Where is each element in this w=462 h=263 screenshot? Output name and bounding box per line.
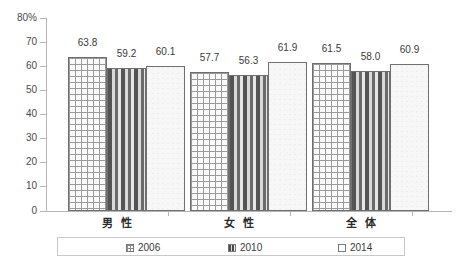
bar-value-2006-male: 63.8 <box>68 38 107 48</box>
y-axis-label-10: 10 <box>0 181 37 191</box>
bar-value-2014-male: 60.1 <box>146 47 185 57</box>
bar-value-2010-female: 56.3 <box>229 56 268 66</box>
y-axis-label-70: 70 <box>0 37 37 47</box>
y-axis-label-30: 30 <box>0 133 37 143</box>
bar-value-2010-total: 58.0 <box>351 52 390 62</box>
bar-2014-total <box>390 64 429 211</box>
legend-swatch-stripe-icon <box>228 244 236 252</box>
x-axis-category-male: 男 性 <box>68 216 168 230</box>
x-axis-tick <box>290 211 291 216</box>
bar-2014-female <box>268 62 307 211</box>
bar-value-2006-female: 57.7 <box>190 53 229 63</box>
legend-item-2010: 2010 <box>228 241 262 254</box>
y-axis-label-0: 0 <box>0 206 37 216</box>
bar-value-2010-male: 59.2 <box>107 49 146 59</box>
legend-item-2014: 2014 <box>338 241 372 254</box>
legend-swatch-crosshatch-icon <box>126 244 134 252</box>
bar-2006-female <box>190 72 229 211</box>
x-axis-tick <box>412 211 413 216</box>
chart-legend: 2006 2010 2014 <box>57 237 405 256</box>
plot-area: 63.8 59.2 60.1 57.7 56.3 61.9 61.5 58.0 … <box>46 14 452 211</box>
legend-item-2006: 2006 <box>126 241 160 254</box>
y-axis-label-60: 60 <box>0 61 37 71</box>
bar-value-2014-total: 60.9 <box>390 45 429 55</box>
bar-2010-female <box>229 75 268 211</box>
bar-chart: 80% 70 60 50 40 30 20 10 0 63.8 59.2 60.… <box>0 0 462 263</box>
x-axis-category-female: 女 性 <box>190 216 290 230</box>
legend-label-2014: 2014 <box>350 242 372 254</box>
bar-value-2014-female: 61.9 <box>268 43 307 53</box>
bar-2010-total <box>351 71 390 211</box>
legend-label-2010: 2010 <box>240 242 262 254</box>
y-axis-label-40: 40 <box>0 109 37 119</box>
y-axis-label-80: 80% <box>0 13 37 23</box>
legend-swatch-plain-icon <box>338 244 346 252</box>
x-axis-tick <box>168 211 169 216</box>
bar-2010-male <box>107 68 146 211</box>
x-axis-line <box>46 211 452 212</box>
bar-2014-male <box>146 66 185 211</box>
bar-2006-total <box>312 63 351 211</box>
x-axis-category-total: 全 体 <box>312 216 412 230</box>
legend-label-2006: 2006 <box>138 242 160 254</box>
bar-2006-male <box>68 57 107 211</box>
bar-value-2006-total: 61.5 <box>312 44 351 54</box>
y-axis-label-50: 50 <box>0 85 37 95</box>
y-axis-label-20: 20 <box>0 157 37 167</box>
